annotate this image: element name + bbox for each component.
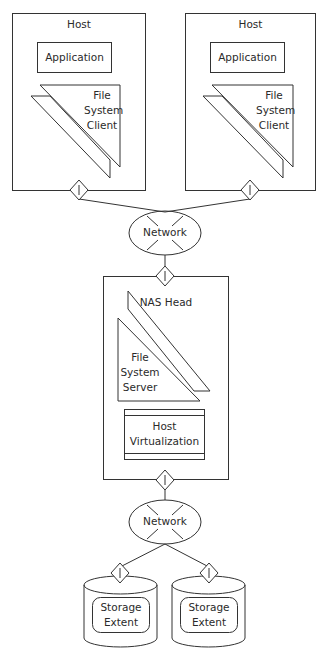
link-host-right-network (165, 199, 250, 212)
application-label-right: Application (210, 50, 285, 65)
host-label-right: Host (185, 17, 316, 32)
link-host-left-network (79, 199, 165, 212)
host-label-left: Host (12, 17, 146, 32)
nas-head-label: NAS Head (103, 295, 229, 310)
network-label-top: Network (129, 225, 201, 240)
link-network-storage-left (120, 544, 165, 567)
host-virtualization-label: Host Virtualization (124, 419, 205, 449)
fs-client-label-right: File System Client (256, 88, 292, 133)
fs-server-label: File System Server (120, 350, 160, 395)
storage-extent-label-left: Storage Extent (92, 600, 150, 630)
link-network-storage-right (165, 544, 209, 567)
network-label-bottom: Network (129, 514, 201, 529)
application-label-left: Application (37, 50, 112, 65)
storage-extent-label-right: Storage Extent (180, 600, 238, 630)
fs-client-label-left: File System Client (84, 88, 120, 133)
